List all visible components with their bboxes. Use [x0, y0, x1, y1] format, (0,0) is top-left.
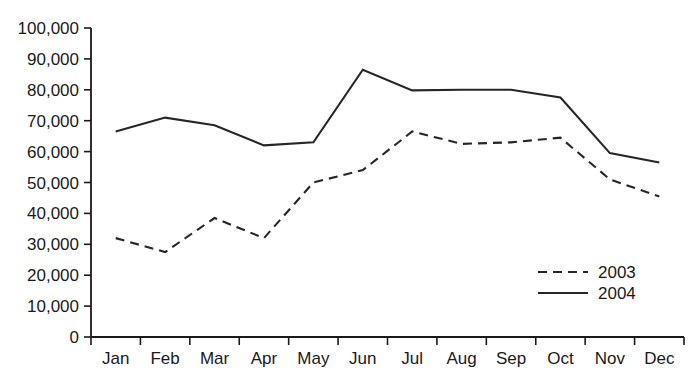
x-axis-tick-marks: [91, 337, 684, 345]
y-axis-tick-labels: 010,00020,00030,00040,00050,00060,00070,…: [18, 19, 79, 347]
x-axis-tick-label: Mar: [200, 349, 230, 368]
y-axis-tick-label: 40,000: [27, 204, 79, 223]
x-axis-tick-label: Nov: [595, 349, 626, 368]
chart-canvas: 010,00020,00030,00040,00050,00060,00070,…: [0, 0, 695, 385]
legend-label-2004: 2004: [598, 284, 636, 303]
y-axis-tick-label: 0: [70, 328, 79, 347]
y-axis-tick-label: 80,000: [27, 81, 79, 100]
y-axis-tick-label: 50,000: [27, 174, 79, 193]
y-axis-tick-label: 70,000: [27, 112, 79, 131]
y-axis-tick-label: 60,000: [27, 143, 79, 162]
x-axis-tick-label: Dec: [644, 349, 675, 368]
x-axis-tick-label: Oct: [547, 349, 574, 368]
y-axis-tick-label: 10,000: [27, 297, 79, 316]
x-axis-tick-label: Apr: [251, 349, 278, 368]
x-axis-tick-label: Sep: [496, 349, 526, 368]
legend-label-2003: 2003: [598, 263, 636, 282]
x-axis-tick-labels: JanFebMarAprMayJunJulAugSepOctNovDec: [102, 349, 675, 368]
y-axis-tick-marks: [84, 28, 91, 337]
x-axis-tick-label: Aug: [447, 349, 477, 368]
y-axis-tick-label: 20,000: [27, 266, 79, 285]
x-axis-tick-label: Jul: [401, 349, 423, 368]
chart-legend: 20032004: [538, 263, 636, 303]
series-line-2003: [116, 132, 660, 253]
x-axis-tick-label: Jun: [349, 349, 376, 368]
y-axis-tick-label: 30,000: [27, 235, 79, 254]
series-line-2004: [116, 70, 660, 163]
x-axis-tick-label: Jan: [102, 349, 129, 368]
y-axis-tick-label: 90,000: [27, 50, 79, 69]
data-series-group: [116, 70, 660, 252]
x-axis-tick-label: Feb: [150, 349, 179, 368]
y-axis-tick-label: 100,000: [18, 19, 79, 38]
x-axis-tick-label: May: [297, 349, 330, 368]
line-chart: 010,00020,00030,00040,00050,00060,00070,…: [0, 0, 695, 385]
